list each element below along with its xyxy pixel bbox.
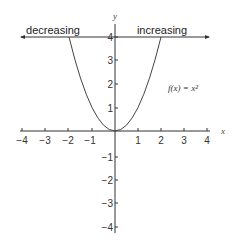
parabola-chart: −4 −3 −2 −1 1 2 3 4 4 3 2 1 −1 −2 −3 −4 … (0, 0, 236, 246)
function-label: f(x) = x² (168, 83, 198, 93)
svg-text:4: 4 (204, 135, 210, 146)
svg-text:3: 3 (107, 55, 113, 66)
x-axis-label: x (220, 126, 225, 136)
right-arrow-icon (205, 35, 210, 39)
svg-text:2: 2 (158, 135, 164, 146)
svg-text:1: 1 (135, 135, 141, 146)
svg-text:−2: −2 (102, 175, 114, 186)
svg-text:−4: −4 (16, 135, 28, 146)
svg-text:−2: −2 (62, 135, 74, 146)
decreasing-label: decreasing (26, 24, 80, 36)
svg-text:−3: −3 (102, 198, 114, 209)
svg-text:−4: −4 (102, 222, 114, 233)
svg-text:1: 1 (107, 103, 113, 114)
svg-text:3: 3 (181, 135, 187, 146)
y-axis-label: y (112, 11, 117, 21)
svg-text:−1: −1 (102, 152, 114, 163)
x-tick-labels: −4 −3 −2 −1 1 2 3 4 (16, 135, 210, 146)
increasing-label: increasing (137, 24, 187, 36)
svg-text:−1: −1 (84, 135, 96, 146)
svg-text:−3: −3 (39, 135, 51, 146)
y-tick-labels: 4 3 2 1 −1 −2 −3 −4 (102, 32, 114, 233)
left-arrow-icon (20, 35, 25, 39)
svg-text:2: 2 (107, 79, 113, 90)
